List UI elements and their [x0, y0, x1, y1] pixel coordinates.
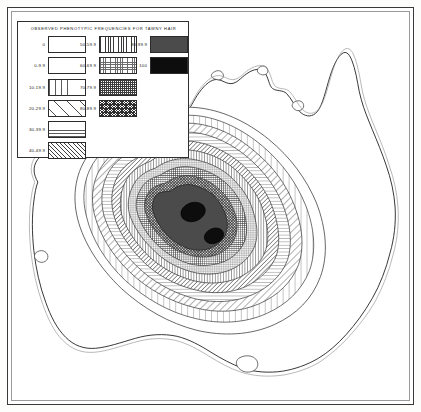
legend-label-100: 100: [125, 63, 147, 68]
legend-label-80-89: 80-89.9: [74, 106, 96, 111]
legend-entry-100: 100: [125, 56, 188, 75]
island-north-central: [257, 66, 268, 75]
legend-entry-70-79: 70-79.9: [74, 78, 137, 97]
legend-label-60-69: 60-69.9: [74, 63, 96, 68]
legend-label-50-59: 50-59.9: [74, 42, 96, 47]
legend-swatch-40-49: [48, 142, 86, 159]
island-south-east: [236, 356, 257, 372]
legend-label-90-99: 90-99.9: [125, 42, 147, 47]
legend-entry-90-99: 90-99.9: [125, 35, 188, 54]
legend-label-0-9: 0-9.9: [23, 63, 45, 68]
legend-entry-80-89: 80-89.9: [74, 99, 137, 118]
legend-swatch-30-39: [48, 121, 86, 138]
legend-label-20-29: 20-29.9: [23, 106, 45, 111]
legend-label-30-39: 30-39.9: [23, 127, 45, 132]
legend-swatch-80-89: [99, 100, 137, 117]
legend-label-0: 0: [23, 42, 45, 47]
legend-swatch-90-99: [150, 36, 188, 53]
legend-entry-40-49: 40-49.9: [23, 141, 86, 160]
figure-root: OBSERVED PHENOTYPIC FREQUENCIES FOR TAWN…: [0, 0, 421, 412]
legend-columns: 0 0-9.9 10-19.9 20-29.9: [21, 35, 186, 153]
legend-box: OBSERVED PHENOTYPIC FREQUENCIES FOR TAWN…: [17, 21, 189, 158]
legend-swatch-100: [150, 57, 188, 74]
legend-title: OBSERVED PHENOTYPIC FREQUENCIES FOR TAWN…: [21, 26, 186, 31]
island-north-west: [211, 71, 223, 80]
legend-label-10-19: 10-19.9: [23, 85, 45, 90]
legend-swatch-70-79: [99, 79, 137, 96]
legend-label-70-79: 70-79.9: [74, 85, 96, 90]
legend-label-40-49: 40-49.9: [23, 148, 45, 153]
figure-frame: OBSERVED PHENOTYPIC FREQUENCIES FOR TAWN…: [7, 7, 414, 405]
legend-column-3: 90-99.9 100: [125, 35, 188, 78]
legend-entry-30-39: 30-39.9: [23, 120, 86, 139]
